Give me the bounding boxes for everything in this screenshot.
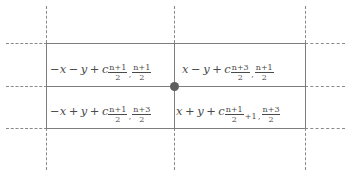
cell-label-top-left: −x−y+cn+12,n+12 <box>50 60 151 78</box>
dashed-extension-bottom-left <box>6 128 47 129</box>
cell-br-subscript: n+12+1,n+32 <box>225 112 281 121</box>
cell-tr-sub1-num: n+3 <box>231 64 250 73</box>
cell-br-operator: + <box>185 104 195 118</box>
cell-br-sub-frac-2: n+32 <box>262 106 281 124</box>
cell-tl-sub1-den: 2 <box>108 73 127 82</box>
cell-bl-sub-frac-2: n+32 <box>132 106 151 124</box>
cell-tr-x-term: x <box>182 62 189 76</box>
dashed-extension-left-top <box>46 6 47 43</box>
cell-tl-sub-separator: , <box>129 70 132 79</box>
dashed-extension-bottom-right <box>305 128 345 129</box>
cell-br-sub-frac-1: n+12 <box>225 106 244 124</box>
dashed-extension-middle-left <box>6 86 47 87</box>
cell-bl-sub-frac-1: n+12 <box>108 106 127 124</box>
cell-tl-sub2-num: n+1 <box>132 64 151 73</box>
cell-tl-sub-frac-1: n+12 <box>108 64 127 82</box>
cell-br-sub1-den: 2 <box>225 115 244 124</box>
cell-tr-plus: + <box>212 62 222 76</box>
dashed-extension-top-left <box>6 43 47 44</box>
cell-tl-sub1-num: n+1 <box>108 64 127 73</box>
cell-tr-sub2-den: 2 <box>255 73 274 82</box>
cell-bl-sub1-den: 2 <box>108 115 127 124</box>
cell-tl-sub-frac-2: n+12 <box>132 64 151 82</box>
cell-br-sub2-den: 2 <box>262 115 281 124</box>
cell-br-sub1-offset: +1 <box>245 112 257 121</box>
cell-tr-y-term: y <box>203 62 210 76</box>
cell-tl-plus: + <box>90 62 100 76</box>
cell-br-sub1-num: n+1 <box>225 106 244 115</box>
grid-line-bottom <box>46 128 305 129</box>
cell-bl-sub1-num: n+1 <box>108 106 127 115</box>
grid-line-right <box>305 43 306 128</box>
cell-bl-sub2-den: 2 <box>132 115 151 124</box>
cell-br-sub2-num: n+3 <box>262 106 281 115</box>
cell-bl-x-term: −x <box>50 104 66 118</box>
cell-label-bottom-left: −x+y+cn+12,n+32 <box>50 102 151 120</box>
cell-label-top-right: x−y+cn+32,n+12 <box>182 60 274 78</box>
cell-bl-plus: + <box>90 104 100 118</box>
cell-tr-operator: − <box>191 62 201 76</box>
cell-label-bottom-right: x+y+cn+12+1,n+32 <box>176 102 280 120</box>
cell-tl-sub2-den: 2 <box>132 73 151 82</box>
math-grid-diagram: −x−y+cn+12,n+12 x−y+cn+32,n+12 −x+y+cn+1… <box>0 0 349 176</box>
dashed-extension-center-top <box>174 6 175 43</box>
cell-tr-sub-separator: , <box>251 70 254 79</box>
dashed-extension-right-bottom <box>305 128 306 170</box>
cell-br-y-term: y <box>197 104 204 118</box>
cell-br-x-term: x <box>176 104 183 118</box>
cell-tr-sub1-den: 2 <box>231 73 250 82</box>
cell-tl-x-term: −x <box>50 62 66 76</box>
cell-bl-sub-separator: , <box>129 112 132 121</box>
dashed-extension-center-bottom <box>174 128 175 170</box>
cell-tl-subscript: n+12,n+12 <box>108 70 151 79</box>
cell-br-sub-separator: , <box>258 112 261 121</box>
cell-bl-operator: + <box>69 104 79 118</box>
cell-bl-sub2-num: n+3 <box>132 106 151 115</box>
cell-tr-sub-frac-1: n+32 <box>231 64 250 82</box>
cell-br-plus: + <box>206 104 216 118</box>
dashed-extension-left-bottom <box>46 128 47 170</box>
cell-tl-operator: − <box>69 62 79 76</box>
cell-tl-y-term: y <box>81 62 88 76</box>
dashed-extension-middle-right <box>305 86 345 87</box>
dashed-extension-top-right <box>305 43 345 44</box>
cell-tr-subscript: n+32,n+12 <box>231 70 274 79</box>
center-vertex-dot <box>170 82 179 91</box>
cell-bl-subscript: n+12,n+32 <box>108 112 151 121</box>
cell-bl-y-term: y <box>81 104 88 118</box>
cell-tr-sub2-num: n+1 <box>255 64 274 73</box>
cell-tr-sub-frac-2: n+12 <box>255 64 274 82</box>
grid-line-top <box>46 43 305 44</box>
dashed-extension-right-top <box>305 6 306 43</box>
grid-line-left <box>46 43 47 128</box>
